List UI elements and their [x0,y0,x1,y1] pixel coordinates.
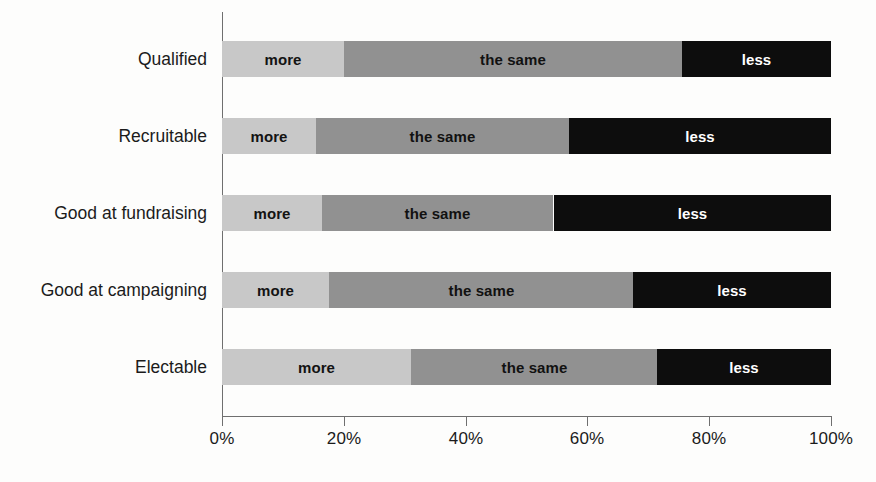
bar-row: morethe sameless [0,349,876,385]
x-axis-tick-label: 100% [809,429,853,449]
x-axis-line [222,416,832,417]
x-axis-tick-label: 0% [210,429,235,449]
x-axis-tick-label: 60% [570,429,604,449]
bar-segment-same: the same [316,118,569,154]
bar-segment-more: more [222,195,322,231]
x-axis-tick-label: 80% [692,429,726,449]
bar-segment-less: less [682,41,831,77]
bar-segment-more: more [222,349,411,385]
bar-segment-same: the same [344,41,682,77]
bar-segment-same: the same [322,195,553,231]
bar-segment-less: less [633,272,831,308]
bar-segment-same: the same [411,349,658,385]
bar-row: morethe sameless [0,41,876,77]
x-axis-tick-mark [344,417,345,426]
x-axis-tick-mark [466,417,467,426]
x-axis-tick-mark [831,417,832,426]
bar-segment-more: more [222,272,329,308]
x-axis-tick-mark [222,417,223,426]
bar-segment-same: the same [329,272,634,308]
x-axis-tick-label: 20% [327,429,361,449]
stacked-bar-chart: QualifiedRecruitableGood at fundraisingG… [0,0,876,482]
x-axis-tick-mark [709,417,710,426]
bar-segment-less: less [554,195,831,231]
bar-segment-more: more [222,41,344,77]
bar-row: morethe sameless [0,118,876,154]
x-axis-tick-mark [587,417,588,426]
x-axis-tick-label: 40% [449,429,483,449]
bar-segment-less: less [657,349,831,385]
bar-segment-less: less [569,118,831,154]
bar-row: morethe sameless [0,195,876,231]
bar-segment-more: more [222,118,316,154]
bar-row: morethe sameless [0,272,876,308]
